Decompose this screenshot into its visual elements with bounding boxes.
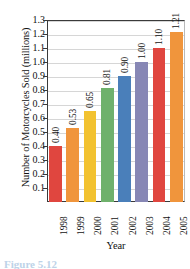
bar [49, 146, 62, 202]
y-tick-mark [43, 20, 48, 21]
bar [135, 62, 148, 202]
bar-slot: 1.00 [135, 20, 148, 203]
bar-slot: 1.10 [153, 20, 166, 203]
x-tick-label: 2003 [146, 216, 155, 235]
figure-caption: Figure 5.12 [4, 258, 94, 269]
bar-slot: 1.21 [170, 20, 183, 203]
bar-value-label: 0.40 [52, 127, 61, 143]
bar-slot: 0.81 [101, 20, 114, 203]
bar [118, 76, 131, 202]
x-axis-title: Year [47, 240, 185, 251]
x-tick-label: 2002 [129, 216, 138, 235]
y-tick-mark [43, 62, 48, 63]
bar-value-label: 0.81 [103, 69, 112, 85]
bar [153, 48, 166, 202]
bar-value-label: 0.90 [121, 56, 130, 72]
y-tick-mark [43, 48, 48, 49]
y-tick-mark [43, 160, 48, 161]
bar-series: 0.400.530.650.810.901.001.101.21 [47, 20, 185, 203]
y-tick-mark [43, 34, 48, 35]
bar-value-label: 1.00 [138, 42, 147, 58]
x-tick-label: 2000 [94, 216, 103, 235]
bar-value-label: 1.21 [172, 13, 181, 29]
bar-value-label: 0.65 [86, 91, 95, 107]
bar [101, 88, 114, 202]
y-axis-tick-labels: 0.10.20.30.40.50.60.70.80.91.01.11.21.3 [23, 14, 45, 204]
y-tick-mark [43, 188, 48, 189]
x-tick-label: 2001 [111, 216, 120, 235]
y-tick-mark [43, 132, 48, 133]
y-tick-mark [43, 76, 48, 77]
bar-slot: 0.90 [118, 20, 131, 203]
x-tick-label: 2005 [180, 216, 189, 235]
bar-slot: 0.65 [84, 20, 97, 203]
bar-chart-figure: Number of Motorcycles Sold (millions) 0.… [0, 0, 190, 269]
bar-slot: 0.53 [66, 20, 79, 203]
bar-value-label: 0.53 [69, 108, 78, 124]
y-tick-mark [43, 146, 48, 147]
y-tick-mark [43, 90, 48, 91]
x-tick-label: 2004 [163, 216, 172, 235]
x-axis-tick-labels: 19981999200020012002200320042005 [47, 203, 185, 239]
bar [66, 128, 79, 202]
clipped-top-text [62, 0, 172, 2]
bar [170, 32, 183, 202]
bar-slot: 0.40 [49, 20, 62, 203]
bar-value-label: 1.10 [155, 28, 164, 44]
y-tick-mark [43, 104, 48, 105]
y-tick-mark [43, 118, 48, 119]
bar [84, 111, 97, 202]
x-tick-label: 1998 [60, 216, 69, 235]
x-tick-label: 1999 [77, 216, 86, 235]
y-tick-mark [43, 174, 48, 175]
